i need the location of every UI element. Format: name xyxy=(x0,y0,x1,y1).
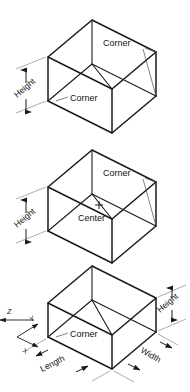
panel-center: Corner Center Height xyxy=(12,150,156,263)
length-dimension-panel3: Length xyxy=(28,339,110,381)
panel-dimensions: Corner Height Width Length xyxy=(0,266,186,382)
box-corner-shape xyxy=(48,20,156,133)
corner-label-panel3: Corner xyxy=(70,329,98,339)
axis-label-z: Z xyxy=(6,308,12,315)
corner-label-panel2: Corner xyxy=(103,168,131,178)
box-center-shape xyxy=(48,150,156,263)
axis-label-x: X xyxy=(21,346,29,355)
corner-label-bottom: Corner xyxy=(70,93,98,103)
corner-leader-line-panel3 xyxy=(56,333,68,337)
width-label: Width xyxy=(139,345,163,365)
height-dimension-panel3: Height xyxy=(155,285,186,331)
height-label-panel3: Height xyxy=(155,291,181,315)
height-label-panel2: Height xyxy=(12,206,38,230)
box-dimension-diagram: Corner Corner Height Corner xyxy=(0,0,190,392)
corner-leader-lines-panel2 xyxy=(143,178,156,226)
length-label: Length xyxy=(38,353,66,374)
axis-label-y: Y xyxy=(28,314,37,323)
diagram-canvas: Corner Corner Height Corner xyxy=(0,0,190,392)
height-label-panel1: Height xyxy=(12,76,38,100)
corner-label-top: Corner xyxy=(103,38,131,48)
panel-corner: Corner Corner Height xyxy=(12,20,156,133)
center-crosshair-icon xyxy=(95,201,103,209)
center-label: Center xyxy=(78,213,105,223)
coordinate-axes-icon: Z Y X xyxy=(0,308,38,355)
